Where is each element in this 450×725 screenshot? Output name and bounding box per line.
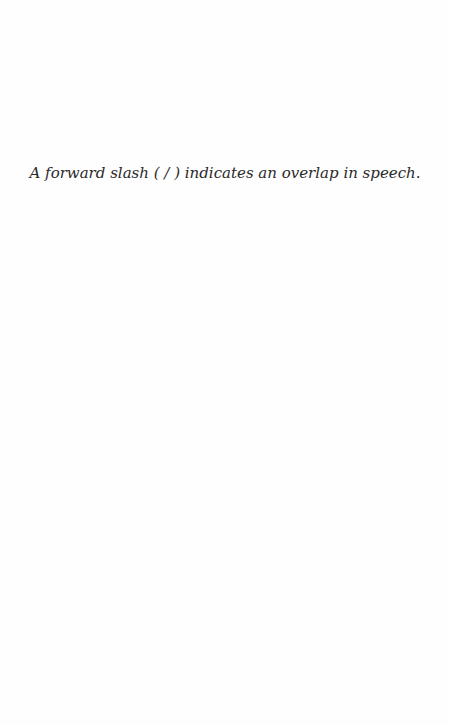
- book-page: A forward slash ( / ) indicates an overl…: [0, 0, 450, 725]
- transcription-note: A forward slash ( / ) indicates an overl…: [0, 163, 450, 183]
